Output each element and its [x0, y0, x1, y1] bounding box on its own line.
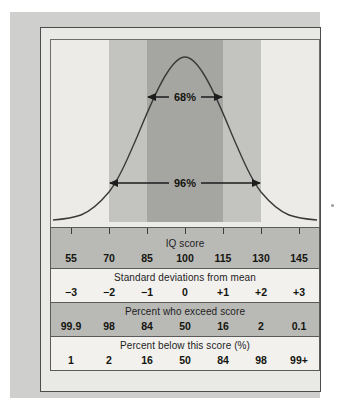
cell-exceed-5: 16 — [217, 320, 229, 332]
score-conversion-table: IQ score 55 70 85 100 115 130 145 Standa… — [50, 228, 320, 371]
cell-iq-4: 100 — [176, 252, 194, 264]
cell-below-4: 50 — [179, 354, 191, 366]
cell-iq-2: 70 — [103, 252, 115, 264]
cell-exceed-2: 98 — [103, 320, 115, 332]
scan-speck — [331, 204, 334, 207]
cell-exceed-3: 84 — [141, 320, 153, 332]
cell-exceed-4: 50 — [179, 320, 191, 332]
cell-sd-7: +3 — [293, 286, 305, 298]
cell-sd-6: +2 — [255, 286, 267, 298]
table-row-percent-exceed: Percent who exceed score 99.9 98 84 50 1… — [50, 302, 320, 337]
cell-sd-5: +1 — [217, 286, 229, 298]
svg-text:96%: 96% — [174, 177, 196, 189]
normal-curve-plot: 68% 96% — [50, 39, 320, 228]
row-values-iq-score: 55 70 85 100 115 130 145 — [51, 249, 319, 268]
cell-sd-1: −3 — [65, 286, 77, 298]
cell-iq-1: 55 — [65, 252, 77, 264]
cell-sd-2: −2 — [103, 286, 115, 298]
cell-sd-3: −1 — [141, 286, 153, 298]
svg-text:68%: 68% — [174, 91, 196, 103]
table-row-iq-score: IQ score 55 70 85 100 115 130 145 — [50, 227, 320, 269]
iq-distribution-figure: Number of people with each score 68% — [40, 27, 321, 392]
row-title-percent-exceed: Percent who exceed score — [51, 303, 319, 317]
row-values-percent-exceed: 99.9 98 84 50 16 2 0.1 — [51, 317, 319, 336]
table-row-standard-deviations: Standard deviations from mean −3 −2 −1 0… — [50, 268, 320, 303]
table-row-percent-below: Percent below this score (%) 1 2 16 50 8… — [50, 336, 320, 371]
inner-shaded-band — [147, 40, 223, 222]
cell-iq-5: 115 — [215, 252, 232, 264]
cell-below-7: 99+ — [290, 354, 308, 366]
cell-below-1: 1 — [68, 354, 74, 366]
cell-sd-4: 0 — [182, 286, 188, 298]
x-axis-ticks — [51, 228, 319, 235]
cell-below-5: 84 — [217, 354, 229, 366]
row-values-percent-below: 1 2 16 50 84 98 99+ — [51, 351, 319, 370]
row-title-iq-score: IQ score — [51, 235, 319, 249]
cell-exceed-6: 2 — [258, 320, 264, 332]
row-title-standard-deviations: Standard deviations from mean — [51, 269, 319, 283]
cell-iq-6: 130 — [252, 252, 270, 264]
cell-iq-7: 145 — [290, 252, 308, 264]
cell-iq-3: 85 — [141, 252, 153, 264]
cell-below-2: 2 — [106, 354, 112, 366]
row-values-standard-deviations: −3 −2 −1 0 +1 +2 +3 — [51, 283, 319, 302]
row-title-percent-below: Percent below this score (%) — [51, 337, 319, 351]
cell-exceed-7: 0.1 — [292, 320, 307, 332]
cell-below-6: 98 — [255, 354, 267, 366]
cell-exceed-1: 99.9 — [61, 320, 81, 332]
figure-plate: Number of people with each score 68% — [10, 12, 320, 398]
cell-below-3: 16 — [141, 354, 153, 366]
bell-curve-svg: 68% 96% — [51, 40, 319, 227]
